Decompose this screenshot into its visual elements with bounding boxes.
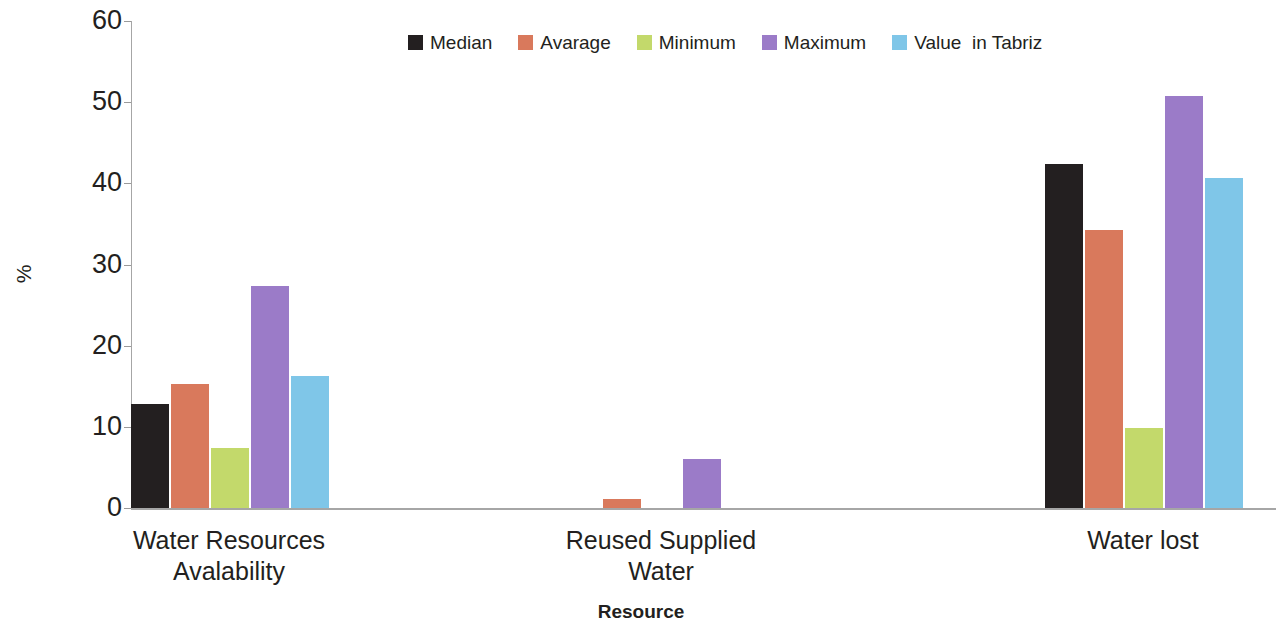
bar[interactable] xyxy=(1085,230,1123,508)
category-label-line: Water xyxy=(491,556,831,587)
legend-swatch-icon xyxy=(518,35,533,50)
legend-swatch-icon xyxy=(637,35,652,50)
y-axis-tick-label: 0 xyxy=(50,494,122,521)
legend-swatch-icon xyxy=(892,35,907,50)
x-axis-category-label: Reused SuppliedWater xyxy=(491,525,831,587)
category-label-line: Avalability xyxy=(59,556,399,587)
y-axis-tick-value: 40 xyxy=(58,169,122,196)
category-label-line: Water Resources xyxy=(59,525,399,556)
y-axis-tick-label: 60 xyxy=(50,7,122,34)
y-axis-tick-label: 10 xyxy=(50,413,122,440)
y-axis-title: % xyxy=(12,254,36,294)
y-axis-tick-label: 50 xyxy=(50,88,122,115)
bar[interactable] xyxy=(171,384,209,508)
bar-group xyxy=(563,21,763,508)
bar[interactable] xyxy=(683,459,721,508)
bar[interactable] xyxy=(1125,428,1163,508)
plot-area xyxy=(131,21,1276,508)
y-axis-tick-value: 50 xyxy=(58,88,122,115)
x-axis-line xyxy=(131,508,1276,510)
legend-item[interactable]: Median xyxy=(408,33,492,52)
category-label-line: Reused Supplied xyxy=(491,525,831,556)
legend-item[interactable]: Maximum xyxy=(762,33,866,52)
legend-item[interactable]: Avarage xyxy=(518,33,610,52)
y-axis-tick-label: 40 xyxy=(50,169,122,196)
bar[interactable] xyxy=(1045,164,1083,508)
y-axis-tick-value: 10 xyxy=(58,413,122,440)
y-axis-tick-value: 20 xyxy=(58,332,122,359)
legend-label: Avarage xyxy=(540,33,610,52)
bar[interactable] xyxy=(251,286,289,508)
legend-label: Maximum xyxy=(784,33,866,52)
chart-legend: MedianAvarageMinimumMaximumValue in Tabr… xyxy=(408,33,1042,52)
bar-chart: % 6050403020100 Water ResourcesAvalabili… xyxy=(0,0,1282,636)
legend-label: Value in Tabriz xyxy=(914,33,1042,52)
y-axis-tick-value: 30 xyxy=(58,251,122,278)
legend-item[interactable]: Minimum xyxy=(637,33,736,52)
legend-swatch-icon xyxy=(408,35,423,50)
legend-label: Median xyxy=(430,33,492,52)
bar[interactable] xyxy=(291,376,329,508)
bar[interactable] xyxy=(603,499,641,508)
bar-group xyxy=(131,21,331,508)
y-axis-tick-label: 20 xyxy=(50,332,122,359)
y-axis-tick-label: 30 xyxy=(50,251,122,278)
bar[interactable] xyxy=(1165,96,1203,508)
bar[interactable] xyxy=(131,404,169,508)
legend-item[interactable]: Value in Tabriz xyxy=(892,33,1042,52)
x-axis-category-label: Water lost xyxy=(973,525,1282,556)
y-axis-tick-value: 0 xyxy=(58,494,122,521)
x-axis-category-label: Water ResourcesAvalability xyxy=(59,525,399,587)
bar-group xyxy=(1045,21,1245,508)
category-label-line: Water lost xyxy=(973,525,1282,556)
y-axis-tick-value: 60 xyxy=(58,7,122,34)
bar[interactable] xyxy=(1205,178,1243,508)
bar[interactable] xyxy=(211,448,249,508)
x-axis-title: Resource xyxy=(0,601,1282,623)
legend-swatch-icon xyxy=(762,35,777,50)
legend-label: Minimum xyxy=(659,33,736,52)
